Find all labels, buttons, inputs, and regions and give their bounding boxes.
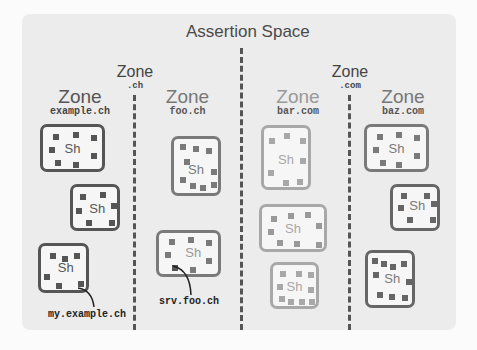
callout-lines [0, 0, 477, 350]
callout-srv-foo-ch: srv.foo.ch [159, 296, 219, 307]
callout-my-example-ch: my.example.ch [48, 309, 126, 320]
